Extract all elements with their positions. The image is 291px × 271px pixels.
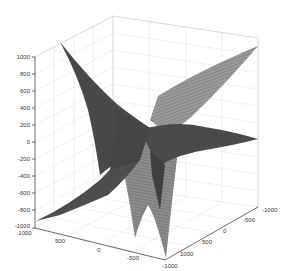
y-axis-line [165,207,258,260]
z-tick: 400 [20,105,31,111]
y-tick: 0 [223,228,227,234]
z-tick: -400 [18,173,31,179]
surface-back-right-arm [150,46,258,135]
x-tick: 500 [55,238,66,244]
z-tick: 0 [27,139,31,145]
z-tick: 600 [20,88,31,94]
z-tick: -600 [18,190,31,196]
x-tick-labels: 1000 500 0 -500 -1000 [18,230,178,269]
y-tick: 500 [202,239,213,245]
x-axis-line [35,228,165,260]
z-tick-labels: 1000 800 600 400 200 0 -200 -400 -600 -8… [15,54,31,229]
x-tick: -500 [127,255,140,261]
y-tick: 1000 [180,251,194,257]
z-tick: 200 [20,122,31,128]
x-tick: 1000 [18,230,32,236]
z-tick: 1000 [17,54,31,60]
y-tick-labels: -1000 -500 0 500 1000 [180,207,278,257]
surface-plot: 1000 800 600 400 200 0 -200 -400 -600 -8… [0,0,291,271]
y-tick: -1000 [262,207,278,213]
z-tick: 800 [20,71,31,77]
x-tick: -1000 [162,263,178,269]
z-tick: -800 [18,207,31,213]
z-tick: -200 [18,156,31,162]
x-tick: 0 [97,247,101,253]
z-tick: -1000 [15,223,31,229]
y-tick: -500 [243,217,256,223]
